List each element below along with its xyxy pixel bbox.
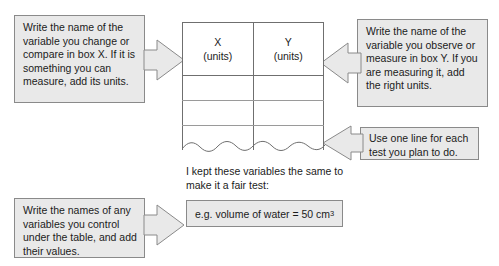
callout-y-variable: Write the name of the variable you obser…: [357, 19, 488, 107]
table-row[interactable]: [183, 76, 324, 101]
arrow-right-to-x-column: [143, 37, 185, 83]
table-header-row: X (units) Y (units): [183, 23, 324, 76]
results-table-grid: X (units) Y (units): [182, 22, 324, 150]
arrow-left-to-table-rows: [322, 124, 364, 162]
example-text: e.g. volume of water = 50 cm: [195, 208, 330, 220]
table-cell-x[interactable]: [183, 101, 254, 126]
column-symbol-x: X: [214, 36, 221, 48]
table-cell-y[interactable]: [253, 76, 324, 101]
table-cell-x[interactable]: [183, 76, 254, 101]
arrow-left-to-y-column: [320, 40, 362, 86]
column-symbol-y: Y: [285, 36, 292, 48]
callout-control-variables: Write the names of any variables you con…: [14, 198, 145, 258]
table-cell-y[interactable]: [253, 101, 324, 126]
table-header-cell-y: Y (units): [253, 23, 324, 76]
callout-x-variable: Write the name of the variable you chang…: [14, 15, 145, 103]
example-control-variable-box: e.g. volume of water = 50 cm3: [186, 200, 343, 227]
torn-edge-icon: [182, 140, 326, 154]
arrow-right-to-example-box: [143, 202, 185, 248]
table-row[interactable]: [183, 101, 324, 126]
column-units-x: (units): [183, 49, 253, 63]
fair-test-caption: I kept these variables the same to make …: [186, 164, 356, 192]
diagram-canvas: Write the name of the variable you chang…: [0, 0, 499, 266]
column-units-y: (units): [254, 49, 324, 63]
callout-one-line-per-test: Use one line for each test you plan to d…: [360, 127, 479, 160]
results-table: X (units) Y (units): [182, 22, 324, 146]
table-header-cell-x: X (units): [183, 23, 254, 76]
